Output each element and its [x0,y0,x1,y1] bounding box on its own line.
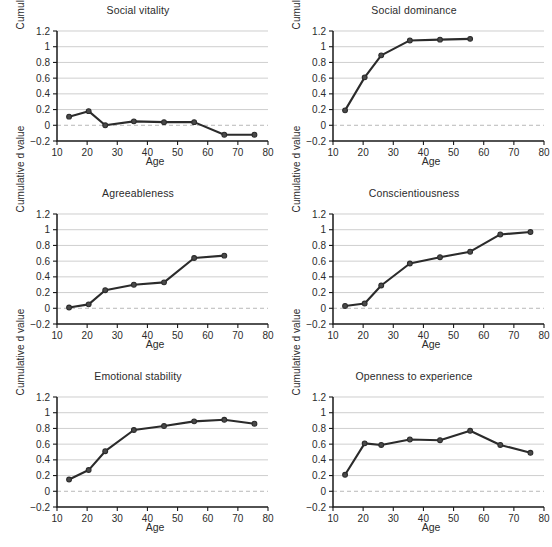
data-point-marker [379,283,384,288]
data-point-marker [131,282,136,287]
y-tick-label: 0.8 [36,57,50,68]
x-tick-label: 30 [112,513,124,524]
data-point-marker [162,424,167,429]
data-point-marker [498,443,503,448]
data-series-line [345,232,530,306]
data-point-marker [468,36,473,41]
y-tick-label: 0.6 [36,256,50,267]
y-tick-label: 0 [320,120,326,131]
x-tick-label: 70 [508,513,520,524]
x-tick-label: 40 [418,147,430,158]
y-tick-label: 0.6 [312,439,326,450]
plot-area: −0.200.20.40.60.811.21020304050607080 [276,366,552,547]
data-point-marker [67,477,72,482]
x-tick-label: 10 [327,513,339,524]
data-point-marker [222,253,227,258]
x-tick-label: 30 [388,330,400,341]
y-tick-label: 1.2 [312,209,326,220]
axis-spines [333,214,544,324]
plot-area: −0.200.20.40.60.811.21020304050607080 [0,366,276,547]
data-point-marker [438,438,443,443]
x-tick-label: 10 [51,330,63,341]
y-tick-label: −0.2 [306,502,326,513]
x-tick-label: 80 [262,513,274,524]
x-tick-label: 40 [418,513,430,524]
data-point-marker [252,132,257,137]
data-point-marker [192,120,197,125]
y-tick-label: 0.4 [36,88,50,99]
y-tick-label: 1 [320,224,326,235]
data-point-marker [362,441,367,446]
x-tick-label: 20 [82,147,94,158]
x-tick-label: 50 [448,147,460,158]
y-tick-label: 0.4 [36,454,50,465]
x-tick-label: 10 [51,147,63,158]
y-tick-label: 0.2 [312,470,326,481]
x-tick-label: 10 [327,147,339,158]
data-point-marker [362,301,367,306]
x-tick-label: 60 [202,330,214,341]
y-tick-label: 1 [320,41,326,52]
x-tick-label: 70 [232,330,244,341]
y-tick-label: 0 [44,486,50,497]
x-tick-label: 80 [538,513,550,524]
x-tick-label: 60 [202,147,214,158]
y-tick-label: 0.6 [36,439,50,450]
y-tick-label: −0.2 [30,136,50,147]
y-tick-label: 0.6 [312,256,326,267]
data-point-marker [528,230,533,235]
data-point-marker [192,256,197,261]
data-point-marker [343,304,348,309]
x-tick-label: 60 [478,147,490,158]
x-tick-label: 70 [232,513,244,524]
figure-panel-grid: Social vitalityCumulative d valueAge−0.2… [0,0,552,547]
y-tick-label: −0.2 [30,319,50,330]
plot-area: −0.200.20.40.60.811.21020304050607080 [0,183,276,365]
x-tick-label: 50 [172,147,184,158]
x-tick-label: 70 [508,147,520,158]
data-point-marker [103,123,108,128]
data-point-marker [528,450,533,455]
data-point-marker [222,132,227,137]
data-point-marker [86,109,91,114]
x-tick-label: 80 [262,330,274,341]
x-tick-label: 40 [418,330,430,341]
y-tick-label: 1.2 [312,392,326,403]
data-point-marker [67,305,72,310]
y-tick-label: 0.8 [36,240,50,251]
y-tick-label: −0.2 [306,136,326,147]
data-point-marker [192,419,197,424]
x-tick-label: 50 [448,513,460,524]
data-point-marker [131,428,136,433]
x-tick-label: 30 [388,513,400,524]
data-point-marker [498,232,503,237]
data-point-marker [222,417,227,422]
y-tick-label: 0.8 [36,423,50,434]
x-tick-label: 60 [478,330,490,341]
x-tick-label: 20 [358,513,370,524]
data-point-marker [343,472,348,477]
data-point-marker [131,119,136,124]
axis-spines [57,397,268,507]
data-point-marker [86,468,91,473]
y-tick-label: 0.6 [36,73,50,84]
x-tick-label: 50 [448,330,460,341]
x-tick-label: 10 [327,330,339,341]
x-tick-label: 40 [142,513,154,524]
x-tick-label: 20 [358,330,370,341]
x-tick-label: 30 [388,147,400,158]
x-tick-label: 80 [538,147,550,158]
data-series-line [69,256,224,308]
y-tick-label: 0.2 [312,104,326,115]
x-tick-label: 20 [82,330,94,341]
data-point-marker [343,108,348,113]
y-tick-label: 0 [320,303,326,314]
chart-panel: AgreeablenessCumulative d valueAge−0.200… [0,183,276,365]
x-tick-label: 50 [172,513,184,524]
y-tick-label: 1 [320,407,326,418]
y-tick-label: 0.6 [312,73,326,84]
data-point-marker [86,302,91,307]
y-tick-label: 1 [44,407,50,418]
x-tick-label: 50 [172,330,184,341]
axis-spines [333,31,544,141]
